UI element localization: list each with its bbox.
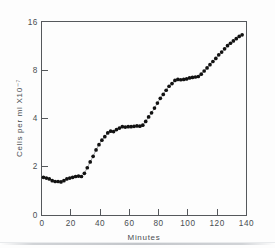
data-point — [144, 120, 148, 124]
data-point — [94, 148, 98, 152]
x-ticklabel-0: 0 — [39, 219, 44, 228]
data-point — [141, 123, 145, 127]
x-ticklabel-20: 20 — [66, 219, 76, 228]
data-point — [226, 44, 230, 48]
growth-curve-chart: 16 8 4 2 0 0 20 40 60 80 100 120 140 Min… — [0, 0, 275, 248]
x-ticklabel-40: 40 — [95, 219, 105, 228]
data-point — [153, 106, 157, 110]
data-point — [85, 166, 89, 170]
data-point — [158, 96, 162, 100]
data-point — [161, 93, 165, 97]
x-ticklabel-140: 140 — [239, 219, 254, 228]
data-point — [205, 66, 209, 70]
data-point — [147, 115, 151, 119]
y-ticklabel-2: 2 — [33, 162, 38, 171]
data-point — [167, 84, 171, 88]
y-ticklabel-0: 0 — [33, 211, 38, 220]
data-point — [91, 154, 95, 158]
data-point — [100, 138, 104, 142]
data-point — [196, 75, 200, 79]
data-point — [199, 72, 203, 76]
y-ticklabel-4: 4 — [33, 114, 38, 123]
y-axis-ticks — [42, 22, 49, 167]
data-point — [83, 171, 87, 175]
x-ticklabel-60: 60 — [124, 219, 134, 228]
plot-frame — [42, 22, 247, 216]
data-point — [232, 39, 236, 43]
data-point — [103, 135, 107, 139]
data-point — [97, 143, 101, 147]
y-ticklabel-16: 16 — [28, 18, 38, 27]
data-point — [150, 111, 154, 115]
y-ticklabel-8: 8 — [33, 66, 38, 75]
data-point — [170, 82, 174, 86]
data-point — [217, 53, 221, 57]
figure-canvas: 16 8 4 2 0 0 20 40 60 80 100 120 140 Min… — [0, 0, 275, 248]
data-point — [214, 57, 218, 61]
data-point — [223, 47, 227, 51]
data-point — [229, 41, 233, 45]
y-axis-title: Cells per ml X10⁻⁷ — [15, 79, 24, 157]
x-ticklabel-120: 120 — [209, 219, 224, 228]
x-ticklabel-80: 80 — [153, 219, 163, 228]
data-point — [211, 60, 215, 64]
data-point — [88, 160, 92, 164]
data-point — [208, 63, 212, 67]
data-point — [234, 37, 238, 41]
data-point — [220, 50, 224, 54]
data-point — [156, 101, 160, 105]
x-ticklabel-100: 100 — [180, 219, 195, 228]
series-points-cell-density — [42, 33, 244, 184]
data-point — [240, 33, 244, 37]
data-point — [164, 88, 168, 92]
x-axis-title: Minutes — [128, 233, 161, 242]
series-line-cell-density — [43, 35, 242, 182]
data-point — [202, 69, 206, 73]
data-point — [80, 175, 84, 179]
scan-artifact-lower — [0, 243, 275, 245]
x-axis-ticks — [71, 209, 217, 216]
